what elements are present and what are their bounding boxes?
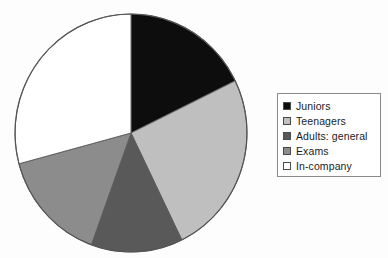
legend-label-adults-general: Adults: general — [296, 131, 368, 142]
legend-label-teenagers: Teenagers — [296, 116, 346, 127]
legend-item-in-company[interactable]: In-company — [283, 159, 380, 173]
legend-swatch-adults-general — [283, 132, 291, 140]
legend-item-teenagers[interactable]: Teenagers — [283, 114, 380, 128]
legend-swatch-exams — [283, 147, 291, 155]
pie-slice-group — [15, 14, 247, 252]
pie-chart — [12, 13, 252, 255]
legend-label-juniors: Juniors — [296, 101, 331, 112]
legend-item-juniors[interactable]: Juniors — [283, 99, 380, 113]
legend-item-adults-general[interactable]: Adults: general — [283, 129, 380, 143]
pie-chart-svg — [12, 13, 252, 255]
chart-page: Juniors Teenagers Adults: general Exams … — [0, 0, 388, 258]
legend-swatch-in-company — [283, 162, 291, 170]
legend-swatch-teenagers — [283, 117, 291, 125]
legend-label-exams: Exams — [296, 146, 329, 157]
legend-swatch-juniors — [283, 102, 291, 110]
legend-label-in-company: In-company — [296, 161, 352, 172]
legend: Juniors Teenagers Adults: general Exams … — [277, 93, 381, 177]
legend-item-exams[interactable]: Exams — [283, 144, 380, 158]
